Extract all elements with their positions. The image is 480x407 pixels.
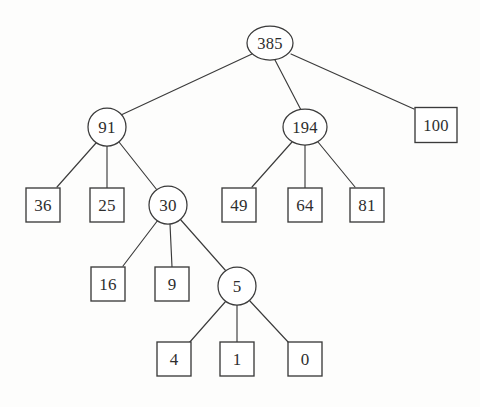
node-label-4: 4 [170, 350, 179, 369]
tree-edge-n385-n194 [275, 60, 301, 110]
tree-diagram: 385911941003625304964811695410 [0, 0, 480, 407]
tree-node-91[interactable]: 91 [88, 108, 126, 146]
node-label-9: 9 [168, 275, 177, 294]
tree-node-9[interactable]: 9 [155, 267, 189, 301]
tree-node-5[interactable]: 5 [218, 267, 256, 305]
tree-node-385[interactable]: 385 [247, 26, 293, 60]
tree-node-81[interactable]: 81 [350, 188, 384, 222]
node-label-49: 49 [230, 196, 247, 215]
node-label-36: 36 [34, 196, 51, 215]
node-label-1: 1 [233, 350, 242, 369]
node-label-0: 0 [301, 350, 310, 369]
tree-edge-n5-n0 [249, 300, 289, 343]
node-label-25: 25 [98, 196, 115, 215]
tree-edge-n194-n81 [318, 142, 355, 187]
tree-node-1[interactable]: 1 [220, 342, 254, 376]
tree-edge-n30-n5 [180, 219, 226, 271]
tree-node-100[interactable]: 100 [415, 108, 457, 143]
node-label-91: 91 [98, 118, 115, 137]
tree-edge-n385-n100 [291, 54, 414, 109]
tree-edge-n30-n16 [123, 220, 158, 266]
tree-node-30[interactable]: 30 [149, 186, 187, 224]
node-label-16: 16 [99, 275, 116, 294]
tree-node-49[interactable]: 49 [222, 188, 256, 222]
tree-diagram-canvas: 385911941003625304964811695410 [0, 0, 480, 407]
tree-node-194[interactable]: 194 [283, 109, 327, 145]
tree-node-64[interactable]: 64 [288, 188, 322, 222]
tree-edge-n5-n4 [189, 301, 226, 343]
tree-edge-n91-n30 [119, 142, 157, 190]
node-label-194: 194 [292, 118, 317, 137]
tree-node-36[interactable]: 36 [26, 188, 60, 222]
tree-edge-n91-n36 [57, 143, 96, 187]
node-label-81: 81 [358, 196, 375, 215]
tree-node-25[interactable]: 25 [90, 188, 124, 222]
tree-node-4[interactable]: 4 [157, 342, 191, 376]
node-label-100: 100 [423, 116, 448, 135]
node-label-385: 385 [257, 34, 282, 53]
tree-node-0[interactable]: 0 [288, 342, 322, 376]
nodes-layer: 385911941003625304964811695410 [26, 26, 457, 376]
tree-edge-n385-n91 [121, 54, 252, 115]
node-label-5: 5 [233, 277, 242, 296]
node-label-64: 64 [296, 196, 314, 215]
tree-edge-n194-n49 [252, 142, 292, 187]
node-label-30: 30 [159, 196, 176, 215]
tree-node-16[interactable]: 16 [91, 267, 125, 301]
tree-edge-n30-n9 [170, 224, 172, 267]
